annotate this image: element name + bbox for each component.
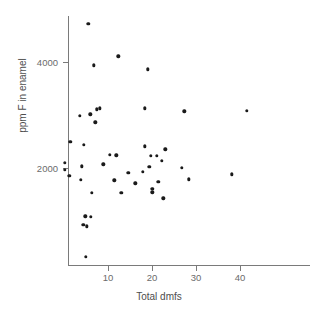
data-point — [108, 153, 111, 156]
data-point — [146, 68, 149, 71]
data-point — [141, 170, 144, 173]
data-point — [180, 166, 183, 169]
x-axis-tick — [108, 266, 109, 271]
data-point — [78, 114, 81, 117]
data-point — [143, 106, 146, 109]
data-point — [79, 178, 82, 181]
data-point — [84, 255, 87, 258]
data-point — [68, 140, 71, 143]
x-axis-tick-label: 40 — [235, 272, 246, 283]
y-axis-tick-label: 4000 — [37, 57, 58, 68]
data-point — [160, 159, 163, 162]
x-axis-tick — [196, 266, 197, 271]
x-axis-tick-label: 30 — [191, 272, 202, 283]
x-axis-title: Total dmfs — [0, 291, 318, 302]
data-point — [82, 143, 85, 146]
data-point — [89, 113, 92, 116]
x-axis-line — [68, 265, 310, 266]
data-point — [86, 22, 89, 25]
data-point — [63, 168, 66, 171]
data-point — [68, 174, 71, 177]
data-point — [115, 154, 118, 157]
data-point — [143, 145, 146, 148]
data-point — [92, 63, 95, 66]
x-axis-tick — [240, 266, 241, 271]
data-point — [85, 225, 88, 228]
data-point — [80, 165, 83, 168]
data-point — [94, 121, 97, 124]
data-point — [151, 191, 154, 194]
data-point — [127, 171, 130, 174]
y-axis-tick-label: 2000 — [37, 163, 58, 174]
data-point — [148, 165, 151, 168]
x-axis-tick-label: 20 — [147, 272, 158, 283]
data-point — [156, 180, 159, 183]
data-point — [98, 106, 101, 109]
x-axis-tick-label: 10 — [103, 272, 114, 283]
y-axis-tick — [63, 62, 68, 63]
data-point — [163, 148, 166, 151]
data-point — [83, 215, 86, 218]
data-point — [182, 110, 185, 113]
data-point — [112, 178, 115, 181]
y-axis-title: ppm F in enamel — [17, 36, 28, 156]
data-point — [116, 54, 119, 57]
data-point — [149, 154, 152, 157]
data-point — [187, 177, 190, 180]
data-point — [90, 191, 93, 194]
data-point — [162, 197, 165, 200]
data-point — [89, 215, 92, 218]
data-point — [63, 161, 66, 164]
data-point — [155, 154, 158, 157]
data-point — [230, 173, 233, 176]
x-axis-tick — [152, 266, 153, 271]
scatter-plot-figure: 2000400010203040 ppm F in enamel Total d… — [0, 0, 318, 314]
data-point — [134, 182, 137, 185]
data-point — [119, 191, 122, 194]
data-point — [245, 109, 248, 112]
data-point — [101, 163, 104, 166]
